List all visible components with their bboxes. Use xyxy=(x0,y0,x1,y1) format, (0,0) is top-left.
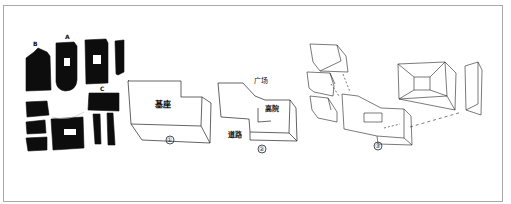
sketch-canvas xyxy=(0,0,511,204)
marker-b: B xyxy=(33,41,38,47)
label-road: 道路 xyxy=(228,132,242,139)
label-courtyard: 高院 xyxy=(265,106,279,113)
step-2-number: ② xyxy=(259,146,264,152)
step-3-sketch xyxy=(307,44,482,145)
marker-a: A xyxy=(65,34,70,40)
step-1-number: ① xyxy=(167,137,172,143)
label-base: 基座 xyxy=(155,101,171,109)
marker-c: C xyxy=(100,86,104,92)
label-plaza: 广场 xyxy=(254,78,268,85)
step-3-number: ③ xyxy=(375,143,380,149)
step-1-sketch xyxy=(128,80,211,143)
